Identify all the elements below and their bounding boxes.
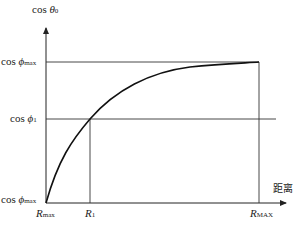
diagram-canvas xyxy=(0,0,298,227)
x-tick-r1: R1 xyxy=(85,208,95,219)
y-tick-cos-phi-max-origin: cos ϕmax xyxy=(1,194,36,205)
y-tick-cos-phi-1: cos ϕ1 xyxy=(10,113,37,124)
x-axis-label: 距离 xyxy=(273,184,293,194)
y-axis-label: cos θ0 xyxy=(32,4,58,15)
y-tick-cos-phi-max-top: cos ϕmax xyxy=(1,56,36,67)
cos-theta-curve xyxy=(46,62,259,203)
x-tick-r-max: Rmax xyxy=(36,208,55,219)
x-tick-r-max-upper: RMAX xyxy=(250,208,273,219)
diagram-root: cos θ0 cos ϕmax cos ϕ1 cos ϕmax Rmax R1 … xyxy=(0,0,298,227)
